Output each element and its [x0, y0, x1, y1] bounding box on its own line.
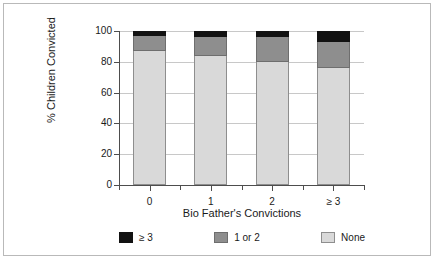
x-axis-boundary-tick [119, 186, 120, 190]
y-axis-tick-label: 80 [101, 57, 112, 67]
x-axis-tick-label: ≥ 3 [326, 196, 340, 207]
gray-swatch [214, 232, 228, 243]
bar-segment-one-or-two [256, 37, 289, 62]
bar [194, 31, 227, 185]
y-axis-tick-label: 100 [95, 26, 112, 36]
x-axis-boundary-tick [303, 186, 304, 190]
bar-segment-one-or-two [317, 42, 350, 68]
bar [256, 31, 289, 185]
x-axis-tick [272, 186, 273, 191]
bar [317, 31, 350, 185]
legend-item: ≥ 3 [119, 232, 153, 243]
legend-item-label: 1 or 2 [234, 232, 260, 243]
light-gray-swatch [321, 232, 335, 243]
legend-item-label: ≥ 3 [139, 232, 153, 243]
x-axis-tick-label: 0 [147, 196, 153, 207]
bar-segment-none [317, 68, 350, 185]
figure-frame: 020406080100 012≥ 3 Bio Father's Convict… [3, 3, 431, 256]
y-axis-tick-label: 20 [101, 149, 112, 159]
y-axis-tick-label: 60 [101, 88, 112, 98]
x-axis: 012≥ 3 [119, 186, 365, 192]
x-axis-tick-label: 2 [269, 196, 275, 207]
x-axis-tick [150, 186, 151, 191]
y-axis: 020406080100 [4, 31, 119, 186]
plot-area [119, 31, 364, 185]
y-axis-tick-label: 0 [106, 180, 112, 190]
x-axis-boundary-tick [364, 186, 365, 190]
bar-segment-none [256, 62, 289, 185]
bar-segment-none [133, 51, 166, 185]
x-axis-boundary-tick [180, 186, 181, 190]
bar-segment-one-or-two [133, 36, 166, 51]
x-axis-boundary-tick [242, 186, 243, 190]
bar-segment-none [194, 56, 227, 185]
legend-item: None [321, 232, 365, 243]
legend-item-label: None [341, 232, 365, 243]
x-axis-tick [211, 186, 212, 191]
x-axis-tick-label: 1 [208, 196, 214, 207]
x-axis-title: Bio Father's Convictions [119, 207, 365, 219]
black-swatch [119, 232, 133, 243]
y-axis-line [119, 31, 120, 186]
bar-segment-three-plus [317, 31, 350, 42]
bar-segment-one-or-two [194, 37, 227, 55]
legend: ≥ 31 or 2None [119, 232, 365, 243]
y-axis-title: % Children Convicted [45, 0, 57, 160]
y-axis-tick-label: 40 [101, 118, 112, 128]
legend-item: 1 or 2 [214, 232, 260, 243]
bar [133, 31, 166, 185]
x-axis-tick [333, 186, 334, 191]
